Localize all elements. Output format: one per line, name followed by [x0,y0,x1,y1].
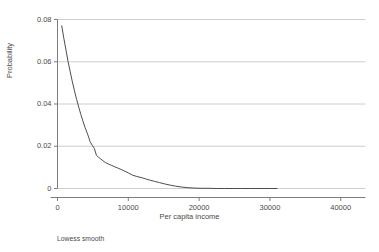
data-series [62,26,277,189]
x-tick-label: 10000 [118,204,139,212]
y-axis-title: Probability [6,43,14,78]
y-tick-label: 0.02 [0,143,52,151]
y-tick-label: 0 [0,185,52,193]
x-axis-title: Per capita income [0,213,379,221]
y-tick-label: 0.04 [0,100,52,108]
x-tick-label: 20000 [189,204,210,212]
y-tick-label: 0.08 [0,16,52,24]
chart-footnote: Lowess smooth [57,236,104,243]
series-line [62,26,277,189]
axis-lines [51,20,366,198]
x-tick-label: 0 [55,204,59,212]
chart-figure: 00.020.040.060.08 010000200003000040000 … [0,0,379,252]
axis-ticks [54,20,341,202]
gridlines [58,20,366,189]
x-tick-label: 40000 [330,204,351,212]
x-tick-label: 30000 [259,204,280,212]
